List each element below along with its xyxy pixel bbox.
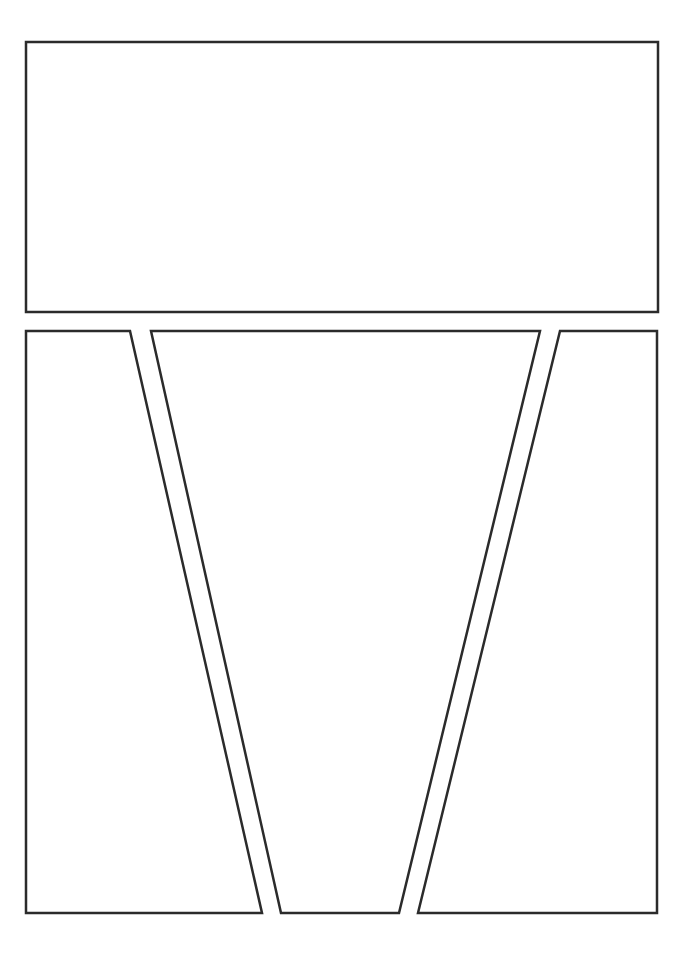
comic-page <box>0 0 692 956</box>
panel-top <box>26 42 658 312</box>
